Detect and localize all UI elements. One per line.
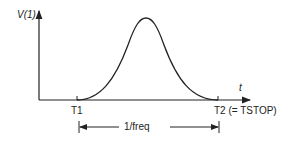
- dimension-label: 1/freq: [124, 122, 150, 132]
- t2-label: T2 (= TSTOP): [214, 106, 277, 116]
- y-axis-label-text: V(1): [17, 9, 36, 20]
- y-axis-label: V(1): [17, 10, 36, 20]
- x-axis-label: t: [239, 83, 242, 93]
- t1-label: T1: [71, 106, 83, 116]
- pulse-curve: [77, 18, 218, 100]
